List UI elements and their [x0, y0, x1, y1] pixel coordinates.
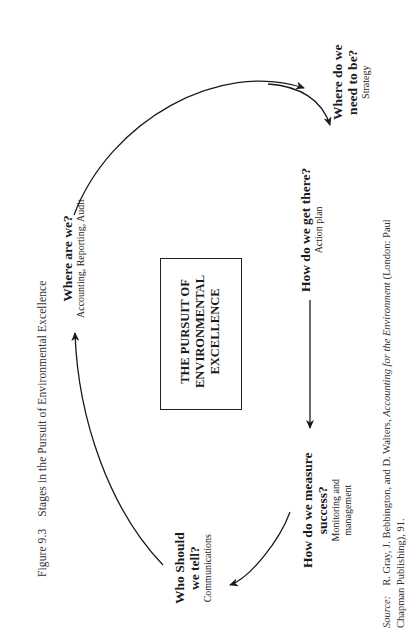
center-box-line-2: ENVIRONMENTAL	[193, 275, 208, 388]
stage-question-line-2: we tell?	[187, 546, 202, 590]
stage-detail: Accounting, Reporting, Audit	[75, 199, 87, 318]
figure-caption: Figure 9.3Stages in the Pursuit of Envir…	[36, 281, 48, 577]
stage-where-are-we: Where are we? Accounting, Reporting, Aud…	[60, 199, 87, 318]
source-line-2: Chapman Publishing), 91.	[394, 219, 408, 628]
stage-question-line-2: need to be?	[345, 50, 360, 115]
source-publisher-start: (London: Paul	[381, 219, 392, 282]
stage-detail: Strategy	[360, 66, 372, 99]
arrow-where-are-we-to-strategy	[74, 81, 304, 215]
stage-question-line-1: How do we measure	[300, 452, 315, 568]
stage-detail: Communications	[202, 534, 214, 602]
stage-who-should-we-tell: Who Should we tell? Communications	[172, 532, 214, 604]
figure-title: Stages in the Pursuit of Environmental E…	[36, 281, 48, 517]
stage-question-line-1: Who Should	[172, 532, 187, 604]
stage-how-do-we-get-there: How do we get there? Action plan	[298, 168, 325, 292]
stage-detail-line-1: Monitoring and	[330, 479, 342, 542]
stage-where-do-we-need-to-be: Where do we need to be? Strategy	[330, 45, 372, 121]
source-label: Source:	[381, 596, 392, 628]
source-authors: R. Gray, J. Bebbington, and D. Walters,	[381, 417, 392, 586]
center-box-text: THE PURSUIT OF ENVIRONMENTAL EXCELLENCE	[178, 275, 223, 388]
center-box-line-1: THE PURSUIT OF	[178, 279, 193, 384]
source-note: Source:R. Gray, J. Bebbington, and D. Wa…	[380, 219, 408, 628]
stage-question-line-2: success?	[315, 486, 330, 534]
stage-question-line-1: Where do we	[330, 45, 345, 121]
diagram-page: Figure 9.3Stages in the Pursuit of Envir…	[0, 0, 417, 634]
stage-detail-line-2: management	[342, 485, 354, 536]
stage-question: Where are we?	[60, 215, 75, 301]
stage-question: How do we get there?	[298, 168, 313, 292]
arrow-tell-to-where-are-we	[75, 333, 163, 565]
stage-detail: Action plan	[313, 206, 325, 253]
center-box-line-3: EXCELLENCE	[208, 288, 223, 374]
arrow-measure-to-tell	[230, 512, 290, 585]
figure-number: Figure 9.3	[36, 529, 48, 577]
source-line-1: Source:R. Gray, J. Bebbington, and D. Wa…	[380, 219, 394, 628]
stage-how-do-we-measure-success: How do we measure success? Monitoring an…	[300, 452, 354, 568]
source-book-title: Accounting for the Environment	[381, 282, 392, 417]
